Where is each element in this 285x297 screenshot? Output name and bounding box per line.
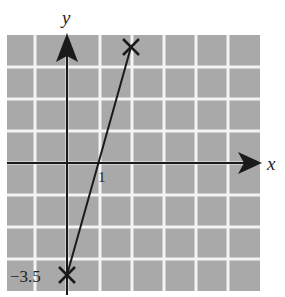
y-axis-label: y [60, 7, 71, 28]
y-tick-label: −3.5 [10, 267, 41, 286]
coordinate-graph: y x 1 −3.5 [0, 0, 285, 297]
x-tick-label: 1 [98, 169, 106, 185]
x-axis-label: x [266, 153, 276, 174]
